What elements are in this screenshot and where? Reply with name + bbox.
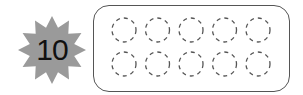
ten-frame-cells xyxy=(0,0,303,95)
ten-frame-cell xyxy=(179,52,203,76)
ten-frame-cell xyxy=(179,18,203,42)
ten-frame-cell xyxy=(146,52,170,76)
ten-frame-cell xyxy=(213,52,237,76)
ten-frame-cell xyxy=(146,18,170,42)
ten-frame-cell xyxy=(246,52,270,76)
ten-frame-cell xyxy=(213,18,237,42)
ten-frame-cell xyxy=(246,18,270,42)
ten-frame-cell xyxy=(112,18,136,42)
ten-frame-cell xyxy=(112,52,136,76)
